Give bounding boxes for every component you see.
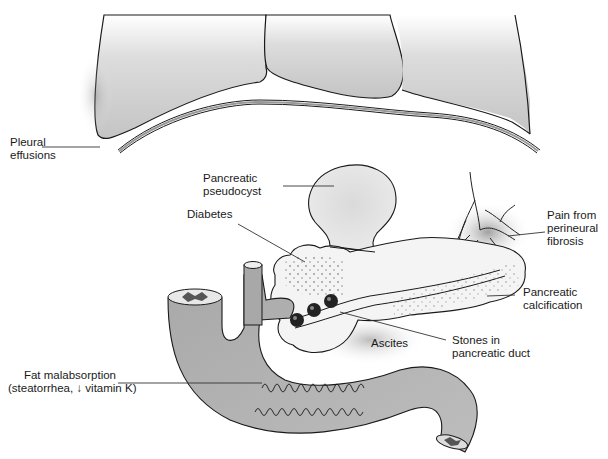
label-line: Pancreatic xyxy=(523,286,582,299)
label-line: Pleural xyxy=(10,136,56,149)
label-line: fibrosis xyxy=(547,235,598,248)
label-pancreatic-pseudocyst: Pancreatic pseudocyst xyxy=(203,172,261,198)
label-pleural-effusions: Pleural effusions xyxy=(10,136,56,162)
pseudocyst xyxy=(283,165,396,252)
label-diabetes: Diabetes xyxy=(187,208,232,221)
label-pancreatic-calcification: Pancreatic calcification xyxy=(523,286,582,312)
label-text: Diabetes xyxy=(187,208,232,220)
label-line: calcification xyxy=(523,299,582,312)
label-line: pseudocyst xyxy=(203,185,261,198)
label-line: Pain from xyxy=(547,209,598,222)
label-line: Pancreatic xyxy=(203,172,261,185)
label-line: perineural xyxy=(547,222,598,235)
pancreatitis-diagram: Pleural effusions Pancreatic pseudocyst … xyxy=(0,0,608,459)
diabetes-leader xyxy=(238,224,305,262)
label-ascites: Ascites xyxy=(371,337,408,350)
label-line: Stones in xyxy=(452,334,530,347)
label-line: (steatorrhea, ↓ vitamin K) xyxy=(8,382,116,395)
label-line: Fat malabsorption xyxy=(8,369,116,382)
lungs xyxy=(77,15,530,139)
label-fat-malabsorption: Fat malabsorption (steatorrhea, ↓ vitami… xyxy=(8,369,116,395)
label-line: pancreatic duct xyxy=(452,347,530,360)
label-pain: Pain from perineural fibrosis xyxy=(547,209,598,248)
label-stones: Stones in pancreatic duct xyxy=(452,334,530,360)
label-text: Ascites xyxy=(371,337,408,349)
label-line: effusions xyxy=(10,149,56,162)
